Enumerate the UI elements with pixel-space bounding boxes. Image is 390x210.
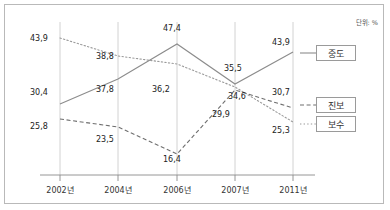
data-label-jinbo-2002: 25,8: [30, 122, 48, 131]
x-tick-label-2004: 2004년: [104, 184, 131, 195]
x-tick-label-2006: 2006년: [163, 184, 190, 195]
x-tick-label-2011: 2011년: [279, 184, 306, 195]
data-label-jungdo-2002: 30,4: [30, 88, 48, 97]
data-label-jungdo-2007: 35,5: [224, 64, 242, 73]
data-label-boso-2006: 36,2: [152, 85, 170, 94]
data-label-boso-2002: 43,9: [30, 34, 48, 43]
data-label-jinbo-2011: 30,7: [272, 88, 290, 97]
data-label-jungdo-2011: 43,9: [272, 38, 290, 47]
data-label-jinbo-2007: 34,6: [228, 92, 246, 101]
x-axis: [40, 175, 315, 181]
unit-label: 단위: %: [356, 17, 378, 27]
series-line-jinbo: [60, 90, 293, 154]
legend-item-jinbo[interactable]: 진보: [316, 97, 356, 113]
legend-connectors: [300, 53, 316, 124]
legend-item-jungdo[interactable]: 중도: [316, 45, 356, 61]
x-tick-label-2002: 2002년: [46, 184, 73, 195]
series-line-boso: [60, 38, 293, 122]
data-label-jinbo-2004: 23,5: [96, 135, 114, 144]
data-label-boso-2011: 25,3: [272, 126, 290, 135]
data-label-jungdo-2004: 37,8: [96, 85, 114, 94]
data-label-boso-2007: 29,9: [212, 110, 230, 119]
chart-screenshot: 단위: % 중도 진보 보수 2002년 2004년 2006년 2007년 2…: [0, 0, 390, 210]
gridlines: [60, 22, 293, 175]
series-line-jungdo: [60, 44, 293, 104]
legend-item-boso[interactable]: 보수: [316, 116, 356, 132]
data-label-jungdo-2006: 47,4: [163, 24, 181, 33]
data-label-jinbo-2006: 16,4: [163, 155, 181, 164]
data-label-boso-2004: 38,8: [96, 52, 114, 61]
x-tick-label-2007: 2007년: [221, 184, 248, 195]
